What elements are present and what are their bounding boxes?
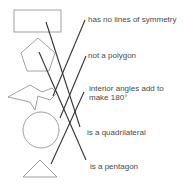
zigzag-shape [8,85,57,110]
label-quadrilateral: is a quadrilateral [87,128,146,137]
match-line [60,56,86,118]
rectangle-shape [14,10,61,32]
label-interior-angles-2: make 180° [89,93,127,102]
match-line [39,52,86,160]
circle-shape [23,112,59,148]
pentagon-shape [21,38,55,71]
label-interior-angles-1: interior angles add to [89,84,164,93]
label-pentagon: is a pentagon [90,162,138,171]
label-not-polygon: not a polygon [88,51,136,60]
match-line [51,92,84,164]
label-no-symmetry: has no lines of symmetry [88,15,176,24]
